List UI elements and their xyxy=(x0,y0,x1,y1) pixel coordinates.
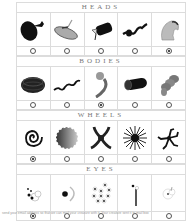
section-title-wheels: WHEELS xyxy=(16,110,186,121)
wheel-spiral-icon xyxy=(18,124,48,152)
head-radio-5[interactable] xyxy=(166,48,172,54)
body-option-1[interactable] xyxy=(17,67,51,100)
body-radio-2[interactable] xyxy=(64,102,70,108)
body-option-3[interactable] xyxy=(85,67,119,100)
wheel-radio-5[interactable] xyxy=(166,156,172,162)
wheels-radio-row xyxy=(16,154,186,164)
wheel-gear-icon xyxy=(52,124,82,152)
bodies-radio-row xyxy=(16,100,186,110)
wheel-option-3[interactable] xyxy=(85,121,119,154)
body-segments-icon xyxy=(154,70,184,98)
head-hood-icon xyxy=(154,16,184,44)
body-coil-icon xyxy=(18,70,48,98)
wheel-option-2[interactable] xyxy=(51,121,85,154)
head-capsule-icon xyxy=(52,16,82,44)
eyes-stalk-icon xyxy=(120,179,150,207)
instructions-text: send your email address so that we can m… xyxy=(2,211,192,215)
eyes-option-2[interactable] xyxy=(51,175,85,211)
body-tube-icon xyxy=(120,70,150,98)
section-title-bodies: BODIES xyxy=(16,56,186,67)
bodies-image-row xyxy=(16,67,186,100)
wheel-legs-icon xyxy=(154,124,184,152)
heads-radio-row xyxy=(16,46,186,56)
eyes-option-5[interactable] xyxy=(152,175,185,211)
wheels-image-row xyxy=(16,121,186,154)
wheels-section: WHEELS xyxy=(16,110,186,164)
eyes-option-4[interactable] xyxy=(118,175,152,211)
eyes-option-1[interactable] xyxy=(17,175,51,211)
wheel-star-icon xyxy=(120,124,150,152)
head-squiggle-icon xyxy=(120,16,150,44)
eyes-single-icon xyxy=(52,179,82,207)
body-option-2[interactable] xyxy=(51,67,85,100)
heads-image-row xyxy=(16,13,186,46)
head-option-4[interactable] xyxy=(118,13,152,46)
heads-section: HEADS xyxy=(16,2,186,56)
body-radio-1[interactable] xyxy=(30,102,36,108)
eyes-option-3[interactable] xyxy=(85,175,119,211)
body-option-4[interactable] xyxy=(118,67,152,100)
eyes-faint-icon xyxy=(154,179,184,207)
bodies-section: BODIES xyxy=(16,56,186,110)
wheel-option-1[interactable] xyxy=(17,121,51,154)
creature-builder-grid: HEADS xyxy=(16,2,186,221)
wheel-radio-4[interactable] xyxy=(132,156,138,162)
head-blob-icon xyxy=(18,16,48,44)
head-radio-2[interactable] xyxy=(64,48,70,54)
wheel-radio-2[interactable] xyxy=(64,156,70,162)
section-title-eyes: EYES xyxy=(16,164,186,175)
eyes-image-row xyxy=(16,175,186,211)
head-option-2[interactable] xyxy=(51,13,85,46)
wheel-radio-1[interactable] xyxy=(30,156,36,162)
head-option-3[interactable] xyxy=(85,13,119,46)
head-option-1[interactable] xyxy=(17,13,51,46)
head-cylinder-icon xyxy=(86,16,116,44)
head-radio-3[interactable] xyxy=(98,48,104,54)
body-radio-4[interactable] xyxy=(132,102,138,108)
body-radio-5[interactable] xyxy=(166,102,172,108)
head-radio-4[interactable] xyxy=(132,48,138,54)
section-title-heads: HEADS xyxy=(16,2,186,13)
body-wave-icon xyxy=(52,70,82,98)
eyes-cluster-icon xyxy=(18,179,48,207)
head-radio-1[interactable] xyxy=(30,48,36,54)
body-option-5[interactable] xyxy=(152,67,185,100)
body-radio-3[interactable] xyxy=(98,102,104,108)
wheel-radio-3[interactable] xyxy=(98,156,104,162)
body-hook-icon xyxy=(86,70,116,98)
head-option-5[interactable] xyxy=(152,13,185,46)
eyes-many-icon xyxy=(86,179,116,207)
wheel-triskelion-icon xyxy=(86,124,116,152)
wheel-option-5[interactable] xyxy=(152,121,185,154)
wheel-option-4[interactable] xyxy=(118,121,152,154)
